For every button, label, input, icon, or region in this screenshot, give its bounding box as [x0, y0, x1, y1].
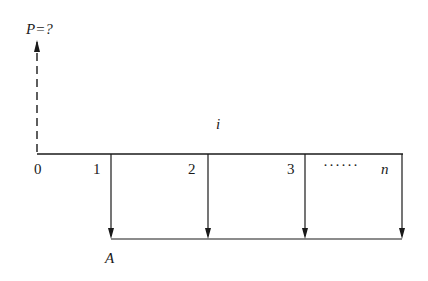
arrowhead-down-icon — [205, 228, 211, 239]
interest-rate-label: i — [216, 117, 220, 132]
arrowhead-down-icon — [302, 228, 308, 239]
annuity-label: A — [105, 251, 114, 266]
period-label-3: 3 — [287, 162, 295, 177]
period-label-0: 0 — [34, 162, 42, 177]
arrowhead-down-icon — [399, 228, 405, 239]
arrowhead-down-icon — [108, 228, 114, 239]
ellipsis-label: ······ — [323, 158, 359, 173]
period-label-n: n — [381, 162, 389, 177]
period-label-1: 1 — [93, 162, 101, 177]
period-label-2: 2 — [188, 162, 196, 177]
present-value-label: P=? — [26, 22, 53, 37]
present-value-arrowhead-icon — [34, 40, 40, 52]
cash-flow-diagram-canvas — [0, 0, 428, 281]
